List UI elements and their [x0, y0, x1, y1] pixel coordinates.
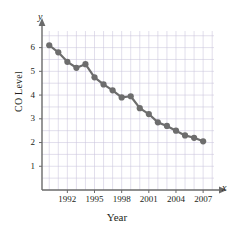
axis-tick-marks: [39, 48, 203, 193]
x-tick-label: 2007: [188, 195, 218, 204]
axis-lines: [39, 18, 227, 193]
y-tick-label: 2: [21, 138, 35, 147]
y-axis-letter: y: [38, 12, 42, 22]
x-tick-label: 1992: [52, 195, 82, 204]
y-tick-label: 6: [21, 43, 35, 52]
data-series-co-level: [46, 42, 206, 144]
x-axis-title: Year: [0, 211, 234, 223]
x-tick-label: 2001: [134, 195, 164, 204]
y-tick-label: 1: [21, 162, 35, 171]
grid-lines: [42, 31, 214, 190]
y-axis-title: CO Level: [13, 62, 24, 122]
x-axis-letter: x: [222, 183, 226, 193]
x-tick-label: 1995: [80, 195, 110, 204]
co-level-line-chart: y x 123456 199219951998200120042007 CO L…: [0, 0, 234, 233]
x-tick-label: 1998: [107, 195, 137, 204]
x-tick-label: 2004: [161, 195, 191, 204]
